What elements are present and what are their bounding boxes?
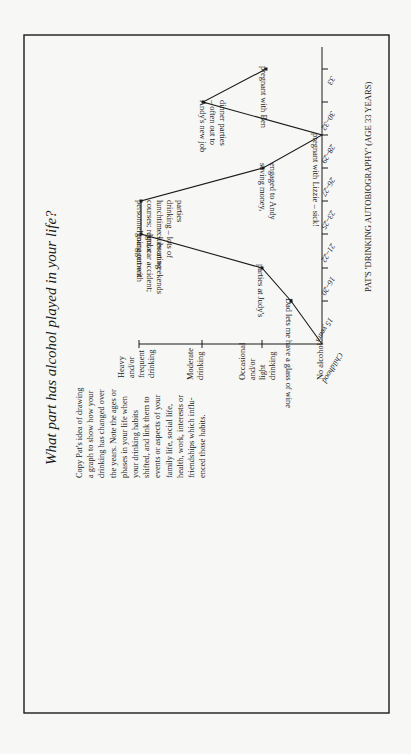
- svg-text:Dad lets me have a glass of wi: Dad lets me have a glass of wine: [284, 298, 293, 408]
- svg-text:Occasional: Occasional: [238, 342, 247, 380]
- svg-text:Heavy: Heavy: [117, 355, 126, 378]
- page-title: What part has alcohol played in your lif…: [43, 210, 59, 465]
- instruction-paragraph: Copy Pat's idea of drawing a graph to sh…: [75, 387, 207, 478]
- svg-text:engaged to Andy: engaged to Andy: [268, 163, 277, 221]
- svg-text:– often out to: – often out to: [208, 99, 217, 145]
- paragraph-line: the years. Note the ages or: [109, 389, 118, 478]
- paragraph-line: a graph to show how your: [86, 391, 95, 478]
- level-label-occasional: Occasional and/or light drinking: [238, 342, 277, 380]
- paragraph-line: family life, social life,: [165, 404, 174, 478]
- level-label-heavy: Heavy and/or frequent drinking: [117, 349, 156, 378]
- svg-text:lunchtime + evening: lunchtime + evening: [155, 200, 164, 270]
- level-label-none: No alcohol: [316, 342, 325, 380]
- paragraph-line: shifted, and link them to: [142, 396, 151, 478]
- svg-text:pregnant with Lizzie – sick!: pregnant with Lizzie – sick!: [311, 133, 320, 227]
- paragraph-line: health, work, interests or: [176, 395, 185, 478]
- annotation-28-29: pregnant with Lizzie – sick!: [311, 133, 320, 227]
- paragraph-line: drinking has changed over: [97, 389, 106, 478]
- chart-axes: [139, 47, 328, 348]
- tick-label: 33: [325, 74, 337, 86]
- age-tick-labels: Childhood 15 years 16–20 21–22 23–25 26–…: [314, 74, 345, 385]
- tick-label: 15 years: [314, 316, 335, 344]
- svg-text:drinking: drinking: [268, 351, 277, 380]
- svg-text:No alcohol: No alcohol: [316, 342, 325, 380]
- chart-title: PAT'S 'DRINKING AUTOBIOGRAPHY' (AGE 33 Y…: [363, 82, 373, 292]
- svg-text:and/or: and/or: [127, 356, 136, 378]
- paragraph-line: your drinking habits: [131, 410, 140, 478]
- paragraph-line: phases in your life when: [120, 395, 129, 478]
- annotation-30-32: Andy's new job – often out to dinner par…: [198, 99, 227, 152]
- svg-text:drinking: drinking: [196, 351, 205, 380]
- svg-text:drinking – lots of: drinking – lots of: [165, 200, 174, 258]
- svg-text:light: light: [258, 364, 267, 380]
- level-label-moderate: Moderate drinking: [186, 348, 205, 380]
- svg-text:personnel management: personnel management: [135, 200, 144, 278]
- svg-text:and/or: and/or: [248, 358, 257, 380]
- annotation-23-25: personnel management courses; regular lu…: [135, 200, 184, 278]
- svg-text:courses; regular: courses; regular: [145, 200, 154, 253]
- svg-text:parties: parties: [175, 200, 184, 222]
- paragraph-line: Copy Pat's idea of drawing: [75, 387, 84, 478]
- svg-text:parties at Judy's: parties at Judy's: [256, 264, 265, 317]
- page-canvas: What part has alcohol played in your lif…: [0, 0, 411, 754]
- annotation-33: pregnant with Ben: [259, 66, 268, 129]
- annotation-26-27: saving money, engaged to Andy: [258, 163, 277, 221]
- paragraph-line: enced those habits.: [198, 415, 207, 479]
- paragraph-line: events or aspects of your: [153, 395, 162, 478]
- svg-text:saving money,: saving money,: [258, 163, 267, 211]
- annotation-16-20: parties at Judy's: [256, 264, 265, 317]
- svg-text:pregnant with Ben: pregnant with Ben: [259, 66, 268, 129]
- svg-text:Andy's new job: Andy's new job: [198, 100, 207, 152]
- annotation-15-years: Dad lets me have a glass of wine: [284, 298, 293, 408]
- svg-text:frequent: frequent: [137, 349, 146, 378]
- paragraph-line: friendships which influ-: [187, 397, 196, 478]
- svg-text:Moderate: Moderate: [186, 348, 195, 380]
- svg-text:drinking: drinking: [147, 349, 156, 378]
- svg-text:dinner parties: dinner parties: [218, 100, 227, 146]
